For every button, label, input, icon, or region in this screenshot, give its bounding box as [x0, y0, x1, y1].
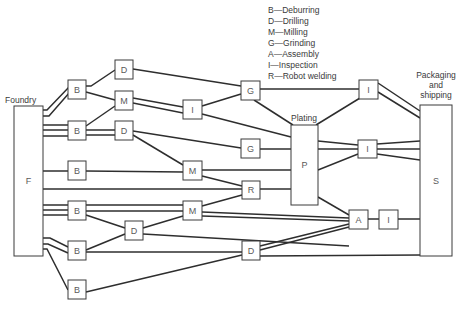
node-label: B — [74, 206, 80, 216]
edge-b2-to-m1 — [86, 106, 115, 126]
node-label: D — [121, 126, 128, 136]
edge-b5-to-d3 — [86, 234, 125, 250]
edge-g1-to-p — [254, 100, 293, 125]
node-label: B — [74, 246, 80, 256]
node-d2: D — [115, 121, 133, 140]
node-label: D — [248, 246, 255, 256]
node-label: G — [247, 86, 254, 96]
edge-m2-to-r — [202, 176, 242, 186]
node-label: G — [247, 144, 254, 154]
node-d1: D — [115, 60, 133, 79]
packaging-caption-line2: and — [429, 80, 443, 90]
node-i1: I — [183, 100, 202, 119]
node-label: R — [248, 185, 255, 195]
node-r: R — [242, 181, 260, 199]
flow-edges — [43, 69, 420, 292]
node-m2: M — [183, 161, 202, 180]
legend-item-assembly: A—Assembly — [268, 49, 337, 60]
plating-caption: Plating — [291, 113, 317, 123]
node-label: M — [189, 206, 197, 216]
edge-i1-to-p — [202, 114, 291, 137]
edge-p-to-i3 — [318, 154, 358, 170]
node-label: D — [121, 65, 128, 75]
edge-i3-to-s — [377, 141, 420, 144]
foundry-caption: Foundry — [5, 95, 37, 105]
node-g2: G — [241, 139, 260, 158]
node-label: D — [131, 226, 138, 236]
node-a: A — [349, 210, 368, 229]
legend: B—Deburring D—Drilling M—Milling G—Grind… — [268, 5, 337, 82]
node-i2: I — [359, 80, 378, 99]
legend-item-robot-welding: R—Robot welding — [268, 71, 337, 82]
node-b1: B — [68, 80, 86, 99]
node-label: B — [74, 85, 80, 95]
node-label: I — [387, 215, 390, 225]
node-b3: B — [68, 161, 86, 180]
edge-f-to-b5 — [43, 238, 68, 247]
legend-item-inspection: I—Inspection — [268, 60, 337, 71]
node-i4: I — [379, 210, 398, 229]
edge-p-to-a — [318, 197, 349, 215]
node-label: I — [191, 105, 194, 115]
edge-f-to-b6 — [43, 249, 68, 290]
node-d4: D — [242, 241, 260, 260]
node-label: P — [301, 160, 307, 170]
node-label: M — [120, 96, 128, 106]
legend-item-deburring: B—Deburring — [268, 5, 337, 16]
edge-m1-to-i1 — [133, 98, 183, 107]
packaging-caption-line1: Packaging — [416, 70, 456, 80]
node-b5: B — [68, 241, 86, 260]
node-label: A — [355, 215, 361, 225]
edge-d3-to-m3 — [143, 216, 183, 228]
edge-d4-to-a — [260, 227, 349, 250]
edge-d4-to-s — [260, 255, 420, 256]
edge-p-to-i2 — [316, 98, 360, 125]
legend-item-grinding: G—Grinding — [268, 38, 337, 49]
edge-b1-to-m1 — [86, 92, 115, 100]
edge-i1-to-g1 — [202, 94, 241, 106]
edge-b1-to-d1 — [86, 70, 115, 86]
edge-i3-to-s — [377, 154, 420, 160]
node-label: M — [189, 166, 197, 176]
node-m1: M — [115, 91, 133, 110]
node-p: P — [291, 125, 318, 205]
node-b2: B — [68, 121, 86, 140]
edge-m3-to-r — [202, 195, 242, 206]
node-b6: B — [68, 280, 86, 299]
node-label: I — [366, 144, 369, 154]
edge-b3-to-m2 — [86, 171, 183, 172]
edge-b4-to-d3 — [86, 215, 125, 228]
node-g1: G — [241, 81, 260, 100]
node-label: F — [26, 176, 32, 186]
node-f: F — [14, 106, 43, 256]
process-flow-diagram: FBBBBBBDMDDIMMGGRDPIIAIS Foundry Plating… — [0, 0, 467, 309]
node-d3: D — [125, 221, 143, 240]
node-label: B — [74, 285, 80, 295]
packaging-caption-line3: shipping — [420, 90, 452, 100]
node-i3: I — [358, 140, 377, 158]
node-label: B — [74, 166, 80, 176]
edge-i2-to-s — [378, 83, 420, 111]
node-label: S — [433, 176, 439, 186]
node-m3: M — [183, 201, 202, 220]
edge-m1-to-i1 — [133, 103, 183, 113]
node-label: B — [74, 126, 80, 136]
edge-f-to-b1 — [43, 92, 70, 116]
edge-i2-to-s — [378, 92, 420, 118]
node-s: S — [420, 105, 452, 256]
legend-item-drilling: D—Drilling — [268, 16, 337, 27]
node-b4: B — [68, 201, 86, 220]
edge-p-to-i3 — [318, 141, 358, 145]
node-label: I — [367, 85, 370, 95]
edge-d2-to-m2 — [133, 135, 183, 165]
legend-item-milling: M—Milling — [268, 27, 337, 38]
edge-d1-to-g1 — [133, 69, 241, 86]
edge-b6-to-d4 — [86, 255, 242, 292]
